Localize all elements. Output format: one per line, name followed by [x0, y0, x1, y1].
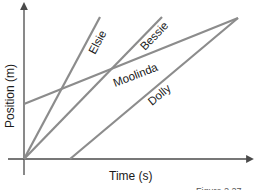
label-elsie: Elsie: [86, 28, 108, 56]
label-dolly: Dolly: [146, 82, 173, 108]
line-moolinda: [24, 18, 238, 104]
y-axis-label: Position (m): [3, 64, 17, 128]
position-time-chart: Elsie Bessie Moolinda Dolly Position (m)…: [0, 0, 254, 190]
x-axis-label: Time (s): [109, 169, 153, 183]
figure-caption: Figure 2.27: [196, 186, 242, 190]
